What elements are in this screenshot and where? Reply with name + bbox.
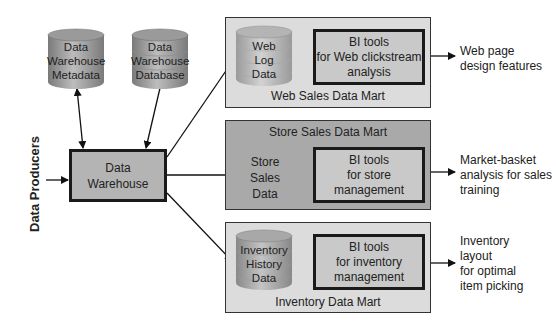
store-store-line3: Data <box>240 186 290 202</box>
inventory-output-line4: item picking <box>460 279 523 294</box>
warehouse-inventory-arrow <box>167 193 232 261</box>
web-bi-tools-box: BI tools for Web clickstream analysis <box>313 29 425 85</box>
web-log-database-icon: Web Log Data <box>235 25 293 87</box>
database-line2: Warehouse <box>131 54 189 68</box>
inventory-mart-title: Inventory Data Mart <box>226 295 430 309</box>
web-mart-title: Web Sales Data Mart <box>226 89 430 103</box>
inventory-bi-line2: for inventory <box>336 255 402 270</box>
inventory-data-mart: Inventory History Data BI tools for inve… <box>225 222 431 313</box>
store-bi-line1: BI tools <box>349 153 389 168</box>
store-output-line2: analysis for sales <box>460 168 552 183</box>
web-output-line2: design features <box>460 59 542 74</box>
store-mart-title: Store Sales Data Mart <box>226 125 430 139</box>
inventory-bi-line3: management <box>334 270 404 285</box>
metadata-warehouse-arrow <box>77 89 83 148</box>
inventory-output-text: Inventory layout for optimal item pickin… <box>460 234 523 294</box>
inventory-store-line3: Data <box>235 271 293 285</box>
metadata-line3: Metadata <box>47 68 105 82</box>
web-bi-line3: analysis <box>347 65 390 80</box>
metadata-line2: Warehouse <box>47 54 105 68</box>
metadata-line1: Data <box>47 40 105 54</box>
store-bi-line3: management <box>334 183 404 198</box>
data-warehouse-box: Data Warehouse <box>69 149 167 202</box>
database-line1: Data <box>131 40 189 54</box>
inventory-history-database-icon: Inventory History Data <box>235 229 293 291</box>
inventory-bi-tools-box: BI tools for inventory management <box>313 234 425 290</box>
web-bi-line1: BI tools <box>349 35 389 50</box>
inventory-output-line2: layout <box>460 249 523 264</box>
warehouse-line1: Data <box>105 160 130 176</box>
store-output-line3: training <box>460 183 552 198</box>
store-store-line2: Sales <box>240 170 290 186</box>
metadata-database-icon: Data Warehouse Metadata <box>47 28 105 90</box>
store-store-line1: Store <box>240 154 290 170</box>
inventory-store-line1: Inventory <box>235 243 293 257</box>
store-sales-data-mart: Store Sales Data Mart Store Sales Data B… <box>225 120 431 210</box>
web-sales-data-mart: Web Log Data BI tools for Web clickstrea… <box>225 17 431 108</box>
store-sales-data-label: Store Sales Data <box>240 154 290 202</box>
web-store-line2: Log <box>235 53 293 67</box>
warehouse-line2: Warehouse <box>88 176 149 192</box>
inventory-output-line3: for optimal <box>460 264 523 279</box>
store-output-line1: Market-basket <box>460 153 552 168</box>
web-bi-line2: for Web clickstream <box>316 50 421 65</box>
store-bi-line2: for store <box>347 168 391 183</box>
database-line3: Database <box>131 68 189 82</box>
warehouse-database-icon: Data Warehouse Database <box>131 28 189 90</box>
store-bi-tools-box: BI tools for store management <box>313 147 425 203</box>
web-store-line1: Web <box>235 39 293 53</box>
data-producers-label: Data Producers <box>27 136 42 232</box>
store-output-text: Market-basket analysis for sales trainin… <box>460 153 552 198</box>
web-store-line3: Data <box>235 67 293 81</box>
inventory-store-line2: History <box>235 257 293 271</box>
database-warehouse-arrow <box>146 88 160 148</box>
inventory-bi-line1: BI tools <box>349 240 389 255</box>
web-output-line1: Web page <box>460 44 542 59</box>
inventory-output-line1: Inventory <box>460 234 523 249</box>
web-output-text: Web page design features <box>460 44 542 74</box>
